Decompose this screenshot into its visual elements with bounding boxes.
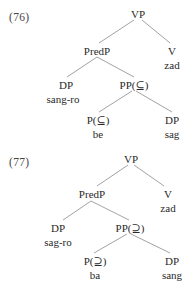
word-dp-object: sang bbox=[162, 269, 182, 281]
word-dp-subject: sag-ro bbox=[44, 236, 72, 248]
node-dp-object: DP bbox=[165, 255, 179, 267]
node-v: V bbox=[164, 188, 172, 200]
word-p: be bbox=[93, 128, 103, 140]
node-vp: VP bbox=[131, 8, 145, 20]
node-pp: PP(⊇) bbox=[116, 222, 145, 234]
syntax-tree-77: (77) VP PredP V zad DP sag-ro PP(⊇) P(⊇)… bbox=[0, 145, 193, 290]
example-number: (77) bbox=[9, 156, 29, 168]
word-dp-object: sag bbox=[165, 128, 180, 140]
syntax-tree-76: (76) VP PredP V zad DP sang-ro PP(⊆) P(⊆… bbox=[0, 0, 193, 145]
word-p: ba bbox=[90, 269, 100, 281]
node-v: V bbox=[168, 45, 176, 57]
example-number: (76) bbox=[9, 11, 29, 23]
node-p: P(⊆) bbox=[87, 114, 110, 126]
word-v: zad bbox=[164, 59, 179, 71]
node-predp: PredP bbox=[79, 188, 105, 200]
node-dp-object: DP bbox=[165, 114, 179, 126]
node-pp: PP(⊆) bbox=[120, 79, 149, 91]
word-v: zad bbox=[160, 202, 175, 214]
node-predp: PredP bbox=[84, 45, 110, 57]
word-dp-subject: sang-ro bbox=[47, 93, 80, 105]
node-dp-subject: DP bbox=[51, 222, 65, 234]
node-p: P(⊇) bbox=[84, 255, 107, 267]
node-dp-subject: DP bbox=[59, 79, 73, 91]
node-vp: VP bbox=[124, 153, 138, 165]
